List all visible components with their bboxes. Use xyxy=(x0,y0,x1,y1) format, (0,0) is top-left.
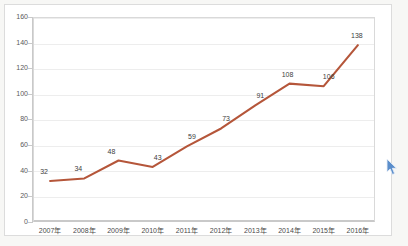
data-label: 32 xyxy=(40,168,48,176)
y-tick-label: 120 xyxy=(2,64,28,72)
x-tick-label: 2014年 xyxy=(278,226,301,235)
x-tick-label: 2011年 xyxy=(176,226,198,235)
x-tick-label: 2007年 xyxy=(39,226,62,235)
x-tick-label: 2008年 xyxy=(73,226,96,235)
y-tick-label: 0 xyxy=(2,218,28,226)
series-line xyxy=(50,45,358,181)
data-label: 108 xyxy=(282,71,294,79)
chart-screenshot: 160 140 120 100 80 60 40 20 0 3234484359… xyxy=(0,0,408,246)
x-tick-label: 2010年 xyxy=(141,226,164,235)
data-label: 138 xyxy=(351,32,363,40)
y-tick-label: 100 xyxy=(2,90,28,98)
x-tick-label: 2015年 xyxy=(312,226,335,235)
x-tick-label: 2016年 xyxy=(347,226,370,235)
y-tick-label: 40 xyxy=(2,167,28,175)
x-tick-label: 2012年 xyxy=(210,226,233,235)
data-label: 91 xyxy=(256,92,264,100)
y-tick-label: 160 xyxy=(2,13,28,21)
x-tick-label: 2009年 xyxy=(107,226,130,235)
data-label: 59 xyxy=(188,133,196,141)
y-tick-label: 140 xyxy=(2,39,28,47)
y-tick-label: 80 xyxy=(2,115,28,123)
mouse-pointer-icon xyxy=(386,158,398,178)
y-tick-label: 60 xyxy=(2,141,28,149)
x-tick-label: 2013年 xyxy=(244,226,267,235)
data-label: 34 xyxy=(74,165,82,173)
y-tick-label: 20 xyxy=(2,192,28,200)
data-label: 106 xyxy=(323,73,335,81)
data-label: 73 xyxy=(222,115,230,123)
data-label: 43 xyxy=(154,154,162,162)
data-label: 48 xyxy=(108,148,116,156)
series-line-layer xyxy=(33,17,375,222)
